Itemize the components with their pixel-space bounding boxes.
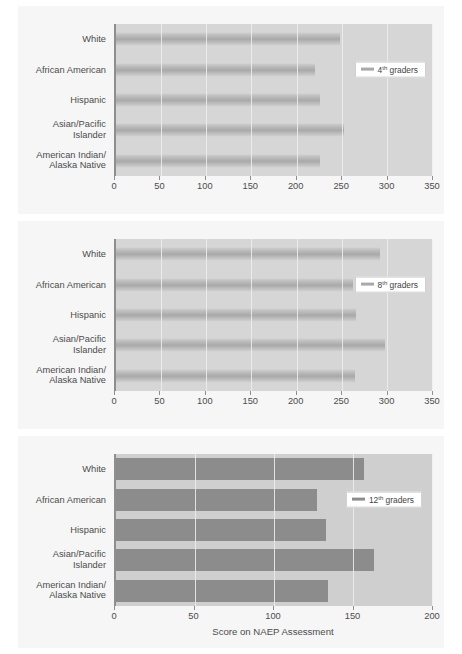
gridline: [342, 239, 343, 391]
gridline: [206, 24, 207, 176]
legend-label: 8th graders: [378, 279, 418, 290]
gridline: [195, 454, 196, 606]
plot-area-4th: [114, 24, 432, 176]
bar: [116, 489, 317, 511]
legend-swatch-icon: [352, 498, 365, 501]
x-tick-label: 200: [288, 181, 304, 191]
bar: [116, 519, 326, 541]
bar-rows-4th: [116, 24, 432, 176]
x-tick: [159, 391, 160, 395]
bar-row: [116, 361, 432, 391]
x-tick: [341, 391, 342, 395]
gridline: [251, 24, 252, 176]
x-tick: [205, 391, 206, 395]
category-label: African American: [14, 494, 106, 505]
x-tick-label: 300: [379, 181, 395, 191]
category-label: White: [14, 34, 106, 45]
x-tick: [296, 391, 297, 395]
gridline: [274, 454, 275, 606]
x-tick-label: 300: [379, 396, 395, 406]
x-tick-label: 100: [265, 611, 281, 621]
bar: [116, 308, 356, 321]
bar: [116, 93, 320, 106]
gridline: [342, 24, 343, 176]
bar: [116, 248, 380, 261]
category-label: Asian/Pacific Islander: [14, 120, 106, 141]
gridline: [161, 24, 162, 176]
bar: [116, 458, 364, 480]
gridline: [251, 239, 252, 391]
category-label: American Indian/ Alaska Native: [14, 365, 106, 386]
ordinal-suffix: th: [378, 494, 383, 500]
legend-12th-graders: 12th graders: [346, 491, 422, 508]
x-tick: [114, 606, 115, 610]
x-tick: [159, 176, 160, 180]
x-tick-label: 50: [154, 396, 164, 406]
gridline: [432, 24, 433, 176]
legend-swatch-icon: [361, 68, 374, 71]
x-tick: [273, 606, 274, 610]
category-label: Asian/Pacific Islander: [14, 335, 106, 356]
legend-4th-graders: 4th graders: [355, 61, 426, 78]
x-tick-label: 350: [424, 181, 440, 191]
legend-swatch-icon: [361, 283, 374, 286]
bar-row: [116, 146, 432, 176]
chart-panel-12th-graders: WhiteAfrican AmericanHispanicAsian/Pacif…: [18, 436, 444, 648]
chart-panel-8th-graders: WhiteAfrican AmericanHispanicAsian/Pacif…: [18, 221, 444, 429]
x-tick: [387, 176, 388, 180]
x-tick-label: 100: [197, 396, 213, 406]
ordinal-suffix: th: [382, 279, 387, 285]
x-tick-label: 200: [288, 396, 304, 406]
bar: [116, 549, 374, 571]
x-tick-label: 150: [345, 611, 361, 621]
x-tick-label: 150: [243, 181, 259, 191]
bar: [116, 33, 340, 46]
chart-panel-4th-graders: WhiteAfrican AmericanHispanicAsian/Pacif…: [18, 6, 444, 214]
x-tick: [250, 176, 251, 180]
x-tick-label: 250: [333, 181, 349, 191]
x-axis-8th: 050100150200250300350: [114, 391, 432, 411]
x-tick-label: 250: [333, 396, 349, 406]
x-tick: [205, 176, 206, 180]
x-tick-label: 0: [111, 181, 116, 191]
ordinal-suffix: th: [382, 64, 387, 70]
x-tick-label: 50: [188, 611, 198, 621]
bar: [116, 154, 320, 167]
x-tick: [296, 176, 297, 180]
x-axis-12th: 050100150200: [114, 606, 432, 626]
x-tick-label: 0: [111, 396, 116, 406]
naep-score-figure: WhiteAfrican AmericanHispanicAsian/Pacif…: [0, 0, 462, 654]
x-tick-label: 200: [424, 611, 440, 621]
legend-8th-graders: 8th graders: [355, 276, 426, 293]
bar-row: [116, 85, 432, 115]
x-tick: [432, 176, 433, 180]
gridline: [432, 454, 433, 606]
x-tick: [341, 176, 342, 180]
category-label: White: [14, 464, 106, 475]
bar-row: [116, 115, 432, 145]
x-tick: [432, 391, 433, 395]
bar: [116, 278, 353, 291]
bar-row: [116, 24, 432, 54]
category-label: Hispanic: [14, 95, 106, 106]
x-tick-label: 100: [197, 181, 213, 191]
category-label: African American: [14, 279, 106, 290]
gridline: [353, 454, 354, 606]
x-axis-title: Score on NAEP Assessment: [114, 626, 432, 637]
gridline: [387, 24, 388, 176]
bar: [116, 369, 355, 382]
x-tick-label: 150: [243, 396, 259, 406]
gridline: [206, 239, 207, 391]
bar-rows-8th: [116, 239, 432, 391]
bar: [116, 63, 315, 76]
x-tick-label: 50: [154, 181, 164, 191]
x-tick: [432, 606, 433, 610]
category-label: African American: [14, 64, 106, 75]
category-label: Hispanic: [14, 310, 106, 321]
x-tick: [114, 176, 115, 180]
bar-row: [116, 330, 432, 360]
category-label: Asian/Pacific Islander: [14, 550, 106, 571]
x-axis-4th: 050100150200250300350: [114, 176, 432, 196]
gridline: [432, 239, 433, 391]
category-label: White: [14, 249, 106, 260]
